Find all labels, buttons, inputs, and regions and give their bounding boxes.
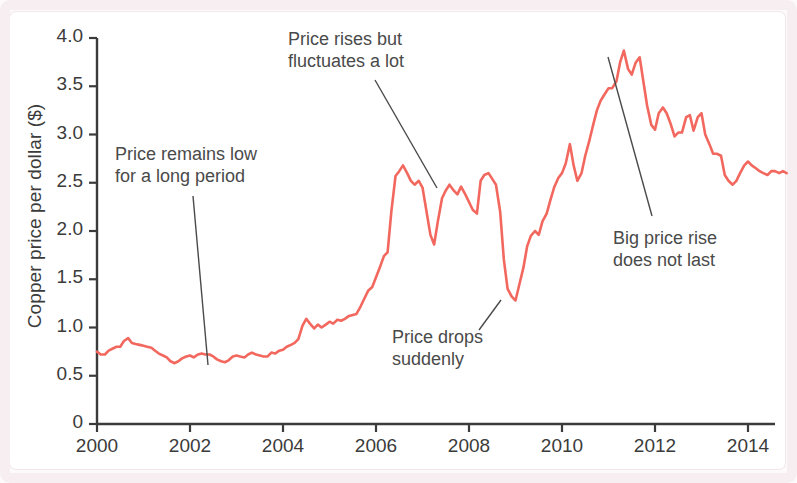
copper-price-line-chart: Copper price per dollar ($) 00.51.01.52.… — [0, 0, 797, 483]
y-tick-label: 0 — [37, 411, 83, 433]
y-tick-label: 4.0 — [37, 25, 83, 47]
x-tick-label: 2004 — [243, 435, 323, 457]
annotation-price-remains-low: Price remains low for a long period — [115, 144, 257, 188]
y-tick-label: 1.0 — [37, 315, 83, 337]
chart-page: Copper price per dollar ($) 00.51.01.52.… — [0, 0, 797, 483]
y-tick-label: 0.5 — [37, 363, 83, 385]
y-tick-label: 2.5 — [37, 170, 83, 192]
x-tick-label: 2010 — [522, 435, 602, 457]
annotation-price-rises-fluctuates: Price rises but fluctuates a lot — [288, 29, 404, 73]
annotation-leader-big-price-rise — [608, 57, 652, 216]
y-tick-label: 3.5 — [37, 73, 83, 95]
x-tick-label: 2006 — [336, 435, 416, 457]
y-tick-label: 1.5 — [37, 266, 83, 288]
series-line-0 — [97, 51, 787, 364]
annotation-leader-price-remains-low — [193, 196, 208, 365]
annotation-big-price-rise: Big price rise does not last — [613, 228, 717, 272]
x-tick-label: 2014 — [708, 435, 788, 457]
x-tick-label: 2008 — [429, 435, 509, 457]
y-tick-label: 2.0 — [37, 218, 83, 240]
y-tick-label: 3.0 — [37, 122, 83, 144]
x-tick-label: 2002 — [150, 435, 230, 457]
annotation-leader-price-drops-suddenly — [479, 300, 501, 330]
x-tick-label: 2000 — [57, 435, 137, 457]
x-tick-label: 2012 — [615, 435, 695, 457]
annotation-price-drops-suddenly: Price drops suddenly — [392, 327, 483, 371]
